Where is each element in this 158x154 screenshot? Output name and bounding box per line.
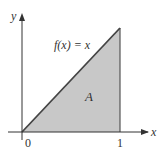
- x-tick-1: 1: [117, 136, 123, 150]
- x-tick-0: 0: [25, 136, 31, 150]
- x-axis-arrow-icon: [141, 129, 149, 135]
- area-diagram: y x 0 1 f(x) = x A: [0, 0, 158, 154]
- function-label: f(x) = x: [54, 38, 91, 52]
- region-label: A: [84, 89, 93, 104]
- x-axis-label: x: [150, 125, 157, 139]
- y-axis-arrow-icon: [19, 13, 25, 21]
- y-axis-label: y: [10, 9, 17, 23]
